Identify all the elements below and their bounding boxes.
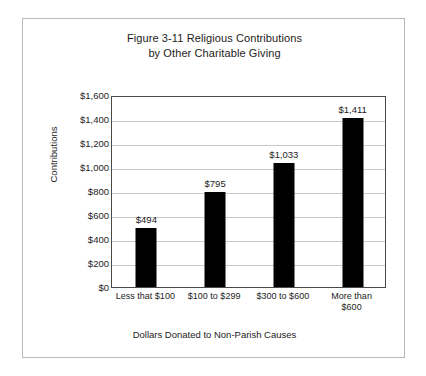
bar-group: $1,411: [318, 97, 387, 287]
bar-value-label: $494: [136, 214, 157, 225]
x-axis-tick-label: Less that $100: [111, 291, 180, 302]
x-axis-tick-labels: Less that $100$100 to $299$300 to $600Mo…: [111, 291, 386, 325]
x-axis-tick-label-line: More than: [317, 291, 386, 302]
y-axis-tick-label: $1,600: [43, 91, 109, 101]
y-axis-tick-label: $600: [43, 211, 109, 221]
y-axis-tick-label: $400: [43, 235, 109, 245]
x-axis-tick-label-line: $300 to $600: [249, 291, 318, 302]
bar[interactable]: [136, 228, 157, 287]
y-axis-tick-labels: $0$200$400$600$800$1,000$1,200$1,400$1,6…: [43, 96, 109, 308]
chart-title: Figure 3-11 Religious Contributions by O…: [23, 31, 406, 61]
y-axis-tick-label: $800: [43, 187, 109, 197]
bar-group: $494: [112, 97, 181, 287]
bar[interactable]: [342, 118, 363, 287]
y-axis-tick-label: $0: [43, 283, 109, 293]
bar[interactable]: [205, 192, 226, 287]
x-axis-tick-label: $100 to $299: [180, 291, 249, 302]
bar[interactable]: [273, 163, 294, 287]
y-axis-tick-label: $1,200: [43, 139, 109, 149]
bar-value-label: $1,033: [269, 149, 298, 160]
y-axis-tick-label: $1,000: [43, 163, 109, 173]
y-axis-tick-label: $1,400: [43, 115, 109, 125]
bar-value-label: $795: [205, 178, 226, 189]
x-axis-title: Dollars Donated to Non-Parish Causes: [23, 329, 406, 340]
bar-group: $795: [181, 97, 250, 287]
y-axis-tick-label: $200: [43, 259, 109, 269]
bar-value-label: $1,411: [338, 104, 366, 115]
chart-title-line-1: Figure 3-11 Religious Contributions: [23, 31, 406, 46]
plot-area: $494$795$1,033$1,411: [111, 96, 386, 288]
bars: $494$795$1,033$1,411: [112, 97, 385, 287]
x-axis-tick-label: More than$600: [317, 291, 386, 313]
x-axis-tick-label-line: $100 to $299: [180, 291, 249, 302]
bar-group: $1,033: [250, 97, 319, 287]
x-axis-tick-label-line: $600: [317, 302, 386, 313]
figure-frame: Figure 3-11 Religious Contributions by O…: [22, 18, 405, 358]
x-axis-tick-label: $300 to $600: [249, 291, 318, 302]
chart-title-line-2: by Other Charitable Giving: [23, 46, 406, 61]
x-axis-tick-label-line: Less that $100: [111, 291, 180, 302]
